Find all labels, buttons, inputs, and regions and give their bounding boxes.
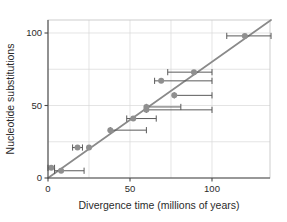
x-tick-label: 50 bbox=[125, 183, 136, 194]
chart-figure: 050100 050100 Divergence time (millions … bbox=[0, 0, 287, 222]
data-point bbox=[143, 104, 149, 110]
data-point bbox=[107, 127, 113, 133]
data-point bbox=[86, 145, 92, 151]
x-axis-label: Divergence time (millions of years) bbox=[78, 199, 239, 211]
y-tick-label: 0 bbox=[37, 172, 42, 183]
y-tick-label: 100 bbox=[26, 27, 42, 38]
y-axis-ticks: 050100 bbox=[26, 27, 48, 183]
divergence-substitution-scatter-plot: 050100 050100 Divergence time (millions … bbox=[0, 0, 287, 222]
data-point bbox=[58, 168, 64, 174]
data-point bbox=[242, 33, 248, 39]
data-point bbox=[191, 69, 197, 75]
y-tick-label: 50 bbox=[31, 100, 42, 111]
x-tick-label: 0 bbox=[45, 183, 50, 194]
x-axis-ticks: 050100 bbox=[45, 178, 220, 194]
data-point bbox=[75, 145, 81, 151]
data-point bbox=[48, 165, 54, 171]
data-point bbox=[130, 116, 136, 122]
data-point bbox=[171, 92, 177, 98]
y-axis-label: Nucleotide substitutions bbox=[4, 44, 16, 155]
data-point bbox=[158, 78, 164, 84]
x-tick-label: 100 bbox=[204, 183, 220, 194]
